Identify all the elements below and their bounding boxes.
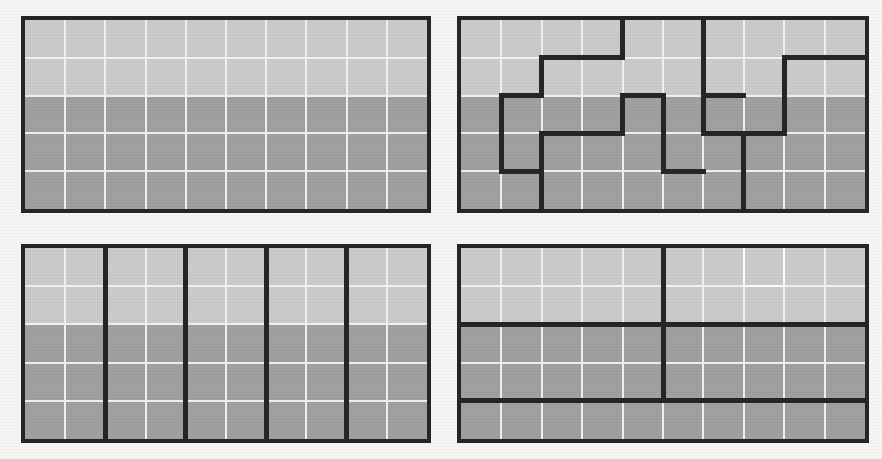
grid-cell[interactable] [65,20,106,58]
grid-cell[interactable] [347,96,388,134]
grid-cell[interactable] [703,96,744,134]
grid-cell[interactable] [825,96,866,134]
grid-cell[interactable] [347,363,388,402]
grid-cell[interactable] [663,58,704,96]
grid-cell[interactable] [744,363,785,402]
grid-cell[interactable] [663,286,704,325]
grid-cell[interactable] [146,96,187,134]
grid-cell[interactable] [582,363,623,402]
grid-cell[interactable] [347,58,388,96]
grid-cell[interactable] [461,171,502,209]
grid-cell[interactable] [542,171,583,209]
grid-cell[interactable] [703,133,744,171]
grid-cell[interactable] [501,286,542,325]
grid-cell[interactable] [387,401,428,440]
grid-cell[interactable] [542,20,583,58]
grid-cell[interactable] [825,401,866,440]
grid-cell[interactable] [703,363,744,402]
grid-cell[interactable] [623,133,664,171]
grid-cell[interactable] [663,248,704,287]
grid-cell[interactable] [306,58,347,96]
grid-cell[interactable] [146,20,187,58]
grid-cell[interactable] [387,363,428,402]
grid-cell[interactable] [663,324,704,363]
grid-cell[interactable] [306,286,347,325]
grid-cell[interactable] [501,58,542,96]
grid-cell[interactable] [703,20,744,58]
grid-cell[interactable] [25,96,66,134]
grid-cell[interactable] [306,171,347,209]
grid-cell[interactable] [347,286,388,325]
grid-cell[interactable] [226,286,267,325]
grid-cell[interactable] [186,248,227,287]
grid-cell[interactable] [623,20,664,58]
grid-cell[interactable] [226,324,267,363]
grid-cell[interactable] [65,133,106,171]
grid-cell[interactable] [65,58,106,96]
grid-cell[interactable] [65,96,106,134]
grid-cell[interactable] [623,286,664,325]
grid-cell[interactable] [542,324,583,363]
grid-cell[interactable] [784,20,825,58]
grid-cell[interactable] [784,58,825,96]
grid-cell[interactable] [65,248,106,287]
grid-cell[interactable] [146,133,187,171]
grid-cell[interactable] [461,20,502,58]
grid-cell[interactable] [347,20,388,58]
grid-cell[interactable] [306,363,347,402]
grid-cell[interactable] [25,248,66,287]
grid-cell[interactable] [461,401,502,440]
grid-cell[interactable] [582,133,623,171]
grid-cell[interactable] [25,324,66,363]
grid-cell[interactable] [186,401,227,440]
grid-cell[interactable] [582,20,623,58]
grid-cell[interactable] [663,20,704,58]
grid-cell[interactable] [105,20,146,58]
grid-cell[interactable] [501,248,542,287]
grid-cell[interactable] [105,248,146,287]
grid-cell[interactable] [266,133,307,171]
grid-cell[interactable] [25,363,66,402]
grid-cell[interactable] [105,324,146,363]
grid-cell[interactable] [266,96,307,134]
grid-cell[interactable] [703,171,744,209]
grid-cell[interactable] [582,96,623,134]
grid-cell[interactable] [25,58,66,96]
grid-cell[interactable] [744,96,785,134]
grid-cell[interactable] [266,20,307,58]
grid-cell[interactable] [306,133,347,171]
grid-cell[interactable] [347,133,388,171]
grid-cell[interactable] [501,133,542,171]
grid-cell[interactable] [461,324,502,363]
grid-cell[interactable] [186,58,227,96]
grid-cell[interactable] [105,286,146,325]
grid-cell[interactable] [825,324,866,363]
grid-cell[interactable] [744,171,785,209]
grid-cell[interactable] [387,58,428,96]
grid-cell[interactable] [347,248,388,287]
grid-cell[interactable] [226,248,267,287]
grid-cell[interactable] [105,171,146,209]
grid-cell[interactable] [744,401,785,440]
grid-cell[interactable] [501,96,542,134]
grid-cell[interactable] [703,324,744,363]
grid-cell[interactable] [347,401,388,440]
grid-cell[interactable] [347,324,388,363]
grid-cell[interactable] [105,96,146,134]
grid-cell[interactable] [825,286,866,325]
grid-cell[interactable] [703,58,744,96]
grid-cell[interactable] [226,133,267,171]
grid-cell[interactable] [105,363,146,402]
grid-cell[interactable] [387,133,428,171]
grid-cell[interactable] [306,401,347,440]
grid-cell[interactable] [623,324,664,363]
grid-cell[interactable] [744,133,785,171]
grid-cell[interactable] [744,248,785,287]
grid-cell[interactable] [25,171,66,209]
grid-cell[interactable] [744,286,785,325]
grid-cell[interactable] [542,58,583,96]
grid-cell[interactable] [266,58,307,96]
grid-cell[interactable] [387,171,428,209]
grid-cell[interactable] [542,248,583,287]
grid-cell[interactable] [306,20,347,58]
